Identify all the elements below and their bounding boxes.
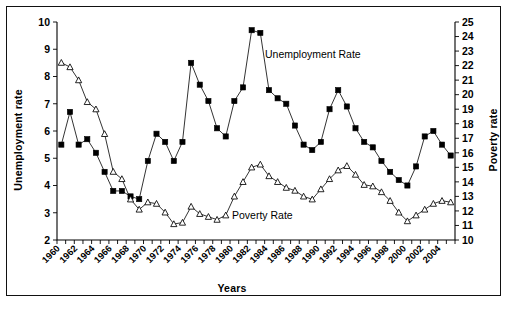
marker-triangle bbox=[58, 59, 64, 65]
y-tick-label: 5 bbox=[44, 152, 50, 164]
marker-square bbox=[439, 142, 444, 147]
x-tick-label: 1994 bbox=[334, 243, 356, 265]
y2-tick-label: 23 bbox=[462, 45, 474, 57]
y-tick-label: 8 bbox=[44, 70, 50, 82]
x-tick-label: 1984 bbox=[248, 243, 270, 265]
y-tick-label: 6 bbox=[44, 125, 50, 137]
marker-triangle bbox=[249, 164, 255, 170]
x-tick-label: 1968 bbox=[109, 243, 131, 265]
marker-square bbox=[171, 158, 176, 163]
y2-tick-label: 21 bbox=[462, 74, 474, 86]
marker-square bbox=[189, 60, 194, 65]
x-tick-label: 1982 bbox=[231, 243, 253, 265]
marker-square bbox=[405, 183, 410, 188]
marker-square bbox=[180, 139, 185, 144]
marker-square bbox=[266, 88, 271, 93]
marker-triangle bbox=[84, 99, 90, 105]
marker-square bbox=[163, 139, 168, 144]
marker-square bbox=[310, 147, 315, 152]
y2-tick-label: 12 bbox=[462, 205, 474, 217]
y2-tick-label: 11 bbox=[462, 219, 473, 231]
marker-triangle bbox=[231, 193, 237, 199]
marker-triangle bbox=[223, 212, 229, 218]
y-tick-label: 9 bbox=[44, 43, 50, 55]
x-tick-label: 1960 bbox=[40, 243, 62, 265]
x-tick-label: 1974 bbox=[161, 243, 183, 265]
marker-square bbox=[119, 188, 124, 193]
marker-square bbox=[206, 98, 211, 103]
x-tick-label: 2004 bbox=[421, 243, 443, 265]
x-tick-label: 1986 bbox=[265, 243, 287, 265]
marker-square bbox=[344, 104, 349, 109]
marker-square bbox=[336, 88, 341, 93]
marker-triangle bbox=[205, 214, 211, 220]
chart-plot-area: 1960196219641966196819701972197419761978… bbox=[0, 0, 511, 309]
y2-tick-labels: 10111213141516171819202122232425 bbox=[462, 16, 474, 246]
marker-triangle bbox=[240, 179, 246, 185]
x-tick-labels: 1960196219641966196819701972197419761978… bbox=[40, 243, 443, 265]
marker-triangle bbox=[422, 206, 428, 212]
y2-tick-label: 16 bbox=[462, 147, 474, 159]
y-tick-label: 3 bbox=[44, 207, 50, 219]
marker-square bbox=[137, 197, 142, 202]
marker-square bbox=[249, 28, 254, 33]
y-tick-labels: 2345678910 bbox=[38, 16, 50, 246]
marker-triangle bbox=[335, 167, 341, 173]
marker-square bbox=[388, 169, 393, 174]
marker-triangle bbox=[430, 200, 436, 206]
y-tick-label: 4 bbox=[44, 179, 50, 191]
x-tick-label: 1996 bbox=[352, 243, 374, 265]
marker-triangle bbox=[110, 168, 116, 174]
y2-tick-label: 17 bbox=[462, 132, 474, 144]
x-tick-label: 1972 bbox=[144, 243, 166, 265]
y2-axis-title: Poverty rate bbox=[487, 108, 499, 171]
dual-axis-line-chart: 1960196219641966196819701972197419761978… bbox=[0, 0, 511, 309]
x-tick-label: 1966 bbox=[92, 243, 114, 265]
marker-triangle bbox=[101, 131, 107, 137]
x-tick-label: 1962 bbox=[58, 243, 80, 265]
marker-triangle bbox=[300, 193, 306, 199]
y2-tick-label: 10 bbox=[462, 234, 474, 246]
y2-tick-label: 25 bbox=[462, 16, 474, 28]
marker-square bbox=[214, 126, 219, 131]
marker-square bbox=[396, 177, 401, 182]
y2-tick-label: 15 bbox=[462, 161, 474, 173]
marker-square bbox=[232, 98, 237, 103]
marker-square bbox=[197, 82, 202, 87]
figure-container: 1960196219641966196819701972197419761978… bbox=[0, 0, 511, 309]
marker-square bbox=[67, 109, 72, 114]
y-axis-title: Unemployment rate bbox=[12, 89, 24, 190]
marker-square bbox=[284, 101, 289, 106]
marker-square bbox=[422, 134, 427, 139]
marker-triangle bbox=[439, 198, 445, 204]
marker-triangle bbox=[188, 203, 194, 209]
x-tick-label: 1988 bbox=[282, 243, 304, 265]
x-tick-label: 2000 bbox=[386, 243, 408, 265]
marker-square bbox=[258, 30, 263, 35]
marker-square bbox=[240, 85, 245, 90]
x-tick-label: 1992 bbox=[317, 243, 339, 265]
marker-square bbox=[154, 131, 159, 136]
marker-square bbox=[318, 139, 323, 144]
marker-square bbox=[102, 169, 107, 174]
marker-triangle bbox=[214, 216, 220, 222]
marker-square bbox=[292, 123, 297, 128]
marker-square bbox=[431, 128, 436, 133]
marker-square bbox=[85, 137, 90, 142]
marker-square bbox=[379, 158, 384, 163]
marker-square bbox=[93, 150, 98, 155]
marker-triangle bbox=[378, 189, 384, 195]
marker-triangle bbox=[344, 163, 350, 169]
marker-triangle bbox=[67, 64, 73, 70]
marker-triangle bbox=[76, 77, 82, 83]
marker-triangle bbox=[257, 161, 263, 167]
data-markers bbox=[58, 28, 454, 227]
marker-square bbox=[145, 158, 150, 163]
marker-triangle bbox=[283, 184, 289, 190]
marker-square bbox=[223, 134, 228, 139]
marker-square bbox=[362, 139, 367, 144]
x-tick-label: 1964 bbox=[75, 243, 97, 265]
series-line-2 bbox=[61, 63, 450, 224]
marker-square bbox=[59, 142, 64, 147]
y2-tick-label: 24 bbox=[462, 30, 474, 42]
